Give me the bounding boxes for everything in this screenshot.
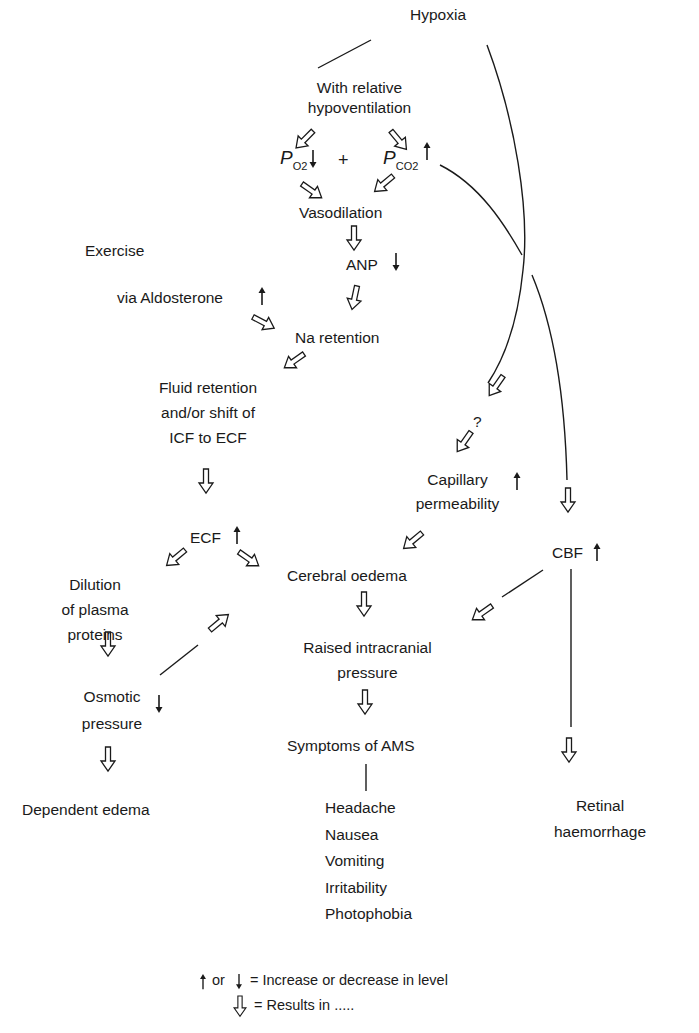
legend-up-icon [200, 974, 206, 989]
node-dilution-plasma-proteins: Dilution of plasma proteins [40, 572, 150, 647]
node-pco2: PCO2 [383, 148, 418, 170]
node-exercise: Exercise [85, 241, 144, 261]
node-hypoxia: Hypoxia [410, 5, 466, 25]
cbf-up-indicator [594, 543, 601, 561]
symptom-item: Vomiting [325, 848, 412, 875]
legend-results-in-icon [234, 996, 246, 1016]
symptom-item: Headache [325, 795, 412, 822]
plus-sign: + [338, 150, 349, 170]
legend-down-icon [236, 974, 242, 989]
node-relative-hypoventilation-line2: hypoventilation [292, 98, 427, 118]
node-raised-intracranial-pressure: Raised intracranial pressure [280, 635, 455, 685]
node-ecf: ECF [190, 528, 221, 548]
node-relative-hypoventilation: With relative hypoventilation [292, 78, 427, 118]
node-dependent-edema: Dependent edema [22, 800, 150, 820]
ecf-up-indicator [234, 526, 241, 544]
node-relative-hypoventilation-line1: With relative [292, 78, 427, 98]
node-anp: ANP [346, 255, 378, 275]
po2-down-indicator [310, 150, 317, 168]
node-symptoms-of-ams: Symptoms of AMS [287, 736, 414, 756]
node-aldosterone: via Aldosterone [117, 288, 223, 308]
legend-results-in: = Results in ..... [254, 995, 354, 1015]
connector-arc [487, 45, 525, 383]
node-fluid-retention: Fluid retention and/or shift of ICF to E… [138, 375, 278, 450]
legend-or-text: or [212, 970, 225, 990]
node-na-retention: Na retention [295, 328, 379, 348]
symptom-item: Nausea [325, 822, 412, 849]
aldosterone-up-indicator [259, 287, 266, 305]
symptom-item: Photophobia [325, 901, 412, 928]
anp-down-indicator [393, 253, 400, 271]
pco2-up-indicator [424, 142, 431, 160]
connector-arc [532, 275, 567, 480]
node-po2: PO2 [280, 148, 307, 170]
node-cerebral-oedema: Cerebral oedema [287, 566, 407, 586]
node-capillary-permeability: Capillary permeability [400, 468, 515, 516]
node-osmotic-pressure: Osmotic pressure [62, 683, 162, 737]
legend-increase-decrease: = Increase or decrease in level [250, 970, 448, 990]
question-mark: ? [473, 412, 482, 432]
node-cbf: CBF [552, 543, 583, 563]
node-retinal-haemorrhage: Retinal haemorrhage [540, 793, 660, 845]
connector-line [318, 40, 371, 68]
symptom-list: Headache Nausea Vomiting Irritability Ph… [325, 795, 412, 928]
connector-arc [440, 165, 522, 255]
node-vasodilation: Vasodilation [299, 203, 382, 223]
symptom-item: Irritability [325, 875, 412, 902]
